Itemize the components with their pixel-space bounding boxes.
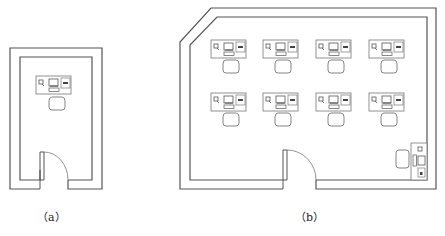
side-workstation xyxy=(396,143,427,180)
panel-a-label: （a） xyxy=(37,208,66,224)
panel-b-label: （b） xyxy=(295,208,324,224)
floor-plan-diagram xyxy=(0,0,445,236)
panel-a-room xyxy=(10,48,102,189)
panel-b-room xyxy=(180,8,436,189)
